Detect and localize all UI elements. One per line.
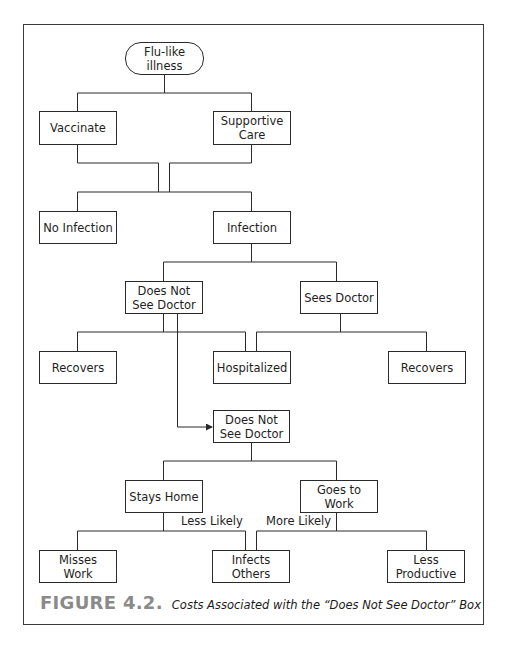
node-recovers-left: Recovers [39,351,117,384]
node-recovers-right: Recovers [388,351,466,384]
node-label: Stays Home [129,490,198,504]
node-label: Infection [227,221,277,235]
node-infection: Infection [213,211,291,244]
node-label: Goes to Work [304,483,374,511]
node-label: Hospitalized [217,361,288,375]
node-does-not-see-doctor: Does Not See Doctor [125,281,203,314]
node-vaccinate: Vaccinate [39,111,117,145]
node-label: Less Productive [396,553,457,581]
node-supportive-care: Supportive Care [213,111,291,145]
node-label: Misses Work [43,553,113,581]
node-label: Recovers [52,361,105,375]
edge-label-less-likely: Less Likely [181,514,243,528]
node-no-infection: No Infection [39,211,117,244]
edge-label-more-likely: More Likely [266,514,331,528]
figure-number: FIGURE 4.2. [40,592,163,613]
node-label: Sees Doctor [304,291,374,305]
figure-caption: FIGURE 4.2. Costs Associated with the “D… [40,592,481,613]
figure-caption-text: Costs Associated with the “Does Not See … [172,598,481,612]
node-stays-home: Stays Home [125,480,203,513]
node-label: No Infection [43,221,112,235]
node-label: Vaccinate [50,121,106,135]
node-goes-to-work: Goes to Work [300,480,378,513]
node-label: Flu-like illness [129,45,200,73]
node-flu-like-illness: Flu-like illness [125,42,204,75]
node-hospitalized: Hospitalized [213,351,291,384]
node-sees-doctor: Sees Doctor [300,281,378,314]
node-misses-work: Misses Work [39,550,117,583]
node-label: Recovers [401,361,454,375]
node-label: Does Not See Doctor [129,284,199,312]
node-label: Does Not See Doctor [217,413,286,441]
node-less-productive: Less Productive [387,550,465,583]
node-does-not-see-doctor-detail: Does Not See Doctor [213,410,290,443]
node-label: Infects Others [216,553,286,581]
node-label: Supportive Care [221,114,284,142]
node-infects-others: Infects Others [212,550,290,583]
